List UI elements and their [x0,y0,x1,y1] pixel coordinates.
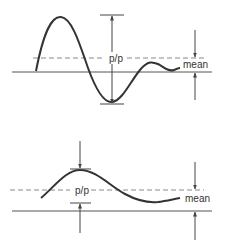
top-mean-label: mean [183,59,208,70]
bottom-diagram: p/p mean [10,141,212,240]
bottom-pp-label: p/p [75,185,89,196]
top-pp-label: p/p [109,53,123,64]
bottom-waveform [41,170,180,202]
top-diagram: p/p mean [12,15,212,104]
top-waveform [36,17,180,102]
waveform-diagram: p/p mean p/p mean [0,0,228,247]
bottom-mean-label: mean [185,193,210,204]
